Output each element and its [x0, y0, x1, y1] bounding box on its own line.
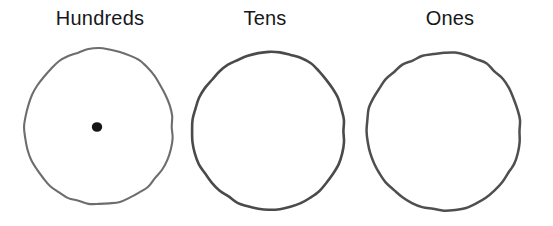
place-value-worksheet: Hundreds Tens Ones: [0, 0, 553, 226]
ones-dot-layer[interactable]: [0, 0, 553, 226]
